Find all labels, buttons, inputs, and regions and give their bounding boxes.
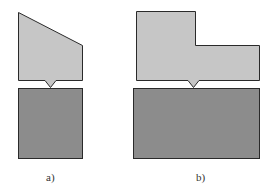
- panel-label-b: b): [196, 171, 206, 184]
- upper-sloped-block-a: [19, 13, 83, 88]
- lower-block-a: [19, 89, 83, 159]
- upper-stepped-block-b: [137, 12, 260, 88]
- figure-canvas: a) b): [0, 0, 277, 195]
- panel-a: a): [19, 13, 83, 185]
- panel-label-a: a): [46, 171, 55, 184]
- panel-b: b): [134, 12, 260, 185]
- lower-block-b: [134, 89, 260, 159]
